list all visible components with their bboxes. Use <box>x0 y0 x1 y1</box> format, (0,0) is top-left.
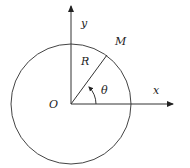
y-axis-label: y <box>80 17 88 30</box>
angle-label: θ <box>101 84 108 97</box>
origin-label: O <box>49 98 58 111</box>
point-m-label: M <box>114 35 127 48</box>
radius-label: R <box>80 55 89 68</box>
diagram-canvas: y x O R M θ <box>0 0 190 168</box>
angle-arc <box>89 87 96 104</box>
x-axis-label: x <box>153 84 160 97</box>
polar-diagram: y x O R M θ <box>0 0 190 168</box>
